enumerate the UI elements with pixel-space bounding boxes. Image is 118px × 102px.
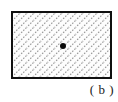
center-point-marker [60, 43, 66, 49]
hatched-rectangle [11, 11, 112, 79]
figure-panel-b: ( b ) [0, 0, 118, 102]
figure-caption-label: ( b ) [90, 82, 114, 98]
